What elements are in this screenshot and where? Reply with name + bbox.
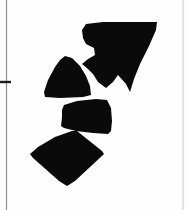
- scanned-page: [0, 0, 188, 210]
- fragment-diagram: [0, 0, 188, 210]
- middle-trapezoid-fragment: [61, 99, 112, 134]
